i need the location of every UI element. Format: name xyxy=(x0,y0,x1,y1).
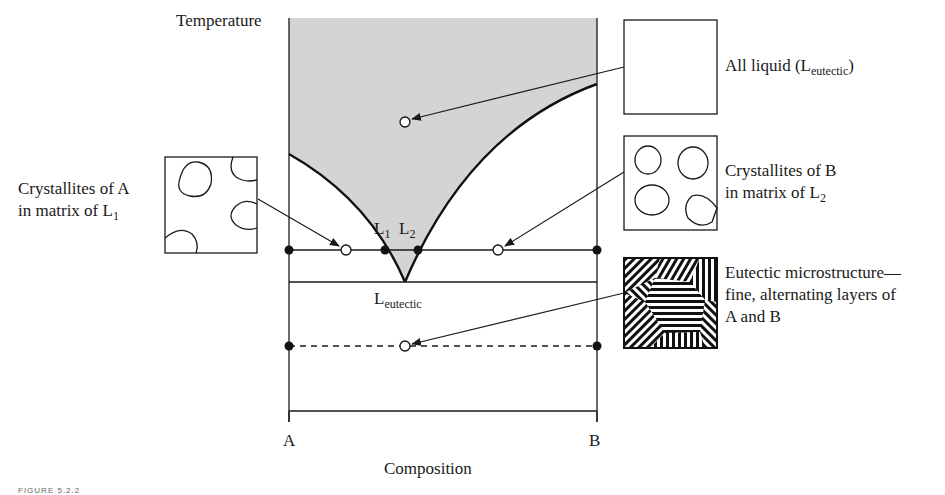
microstructure-crystallites-a xyxy=(165,157,257,253)
figure-caption: FIGURE 5.2.2 xyxy=(18,486,80,495)
x-axis-right-label: B xyxy=(589,430,600,452)
annotation-eutectic-line2: fine, alternating layers of xyxy=(725,284,896,306)
arrow-a xyxy=(258,199,339,246)
annotation-eutectic-line1: Eutectic microstructure— xyxy=(725,262,901,284)
annotation-crystallites-b-line2: in matrix of L2 xyxy=(725,182,826,205)
point-left-tie xyxy=(285,246,294,255)
arrow-eutectic xyxy=(412,293,624,344)
label-l1: L1 xyxy=(374,218,390,241)
point-b-crystallites xyxy=(493,245,503,255)
x-axis-left-label: A xyxy=(283,430,295,452)
point-right-tie xyxy=(593,246,602,255)
microstructure-crystallites-b xyxy=(624,136,717,230)
point-l1 xyxy=(381,246,390,255)
point-a-crystallites xyxy=(341,245,351,255)
arrow-b xyxy=(505,172,624,246)
microstructure-eutectic xyxy=(624,258,717,348)
label-l2: L2 xyxy=(399,218,415,241)
annotation-all-liquid: All liquid (Leutectic) xyxy=(725,55,854,78)
x-axis-label: Composition xyxy=(384,458,472,480)
liquid-region xyxy=(289,18,597,282)
annotation-eutectic-line3: A and B xyxy=(725,306,781,328)
point-l2 xyxy=(414,246,423,255)
microstructure-all-liquid xyxy=(624,20,717,114)
point-right-dash xyxy=(593,342,602,351)
annotation-crystallites-b-line1: Crystallites of B xyxy=(725,160,836,182)
point-left-dash xyxy=(285,342,294,351)
y-axis-label: Temperature xyxy=(176,10,262,32)
point-liquid xyxy=(400,117,410,127)
annotation-crystallites-a-line1: Crystallites of A xyxy=(18,178,129,200)
label-eutectic: Leutectic xyxy=(374,288,422,311)
annotation-crystallites-a-line2: in matrix of L1 xyxy=(18,200,119,223)
point-eutectic-solid xyxy=(400,341,410,351)
